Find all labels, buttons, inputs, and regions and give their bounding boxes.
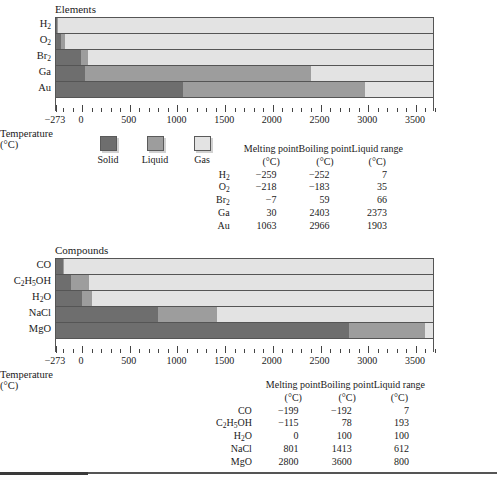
axis-tick-minor bbox=[187, 108, 188, 112]
axis-tick-minor bbox=[330, 108, 331, 112]
header-boiling-point: Boiling point bbox=[298, 143, 351, 156]
unit-melting: (°C) bbox=[266, 392, 321, 405]
axis-tick-major bbox=[56, 105, 57, 112]
table-cell-melting: −259 bbox=[244, 169, 299, 182]
table-row: Br2−75966 bbox=[216, 194, 403, 207]
axis-tick-major bbox=[321, 105, 322, 112]
axis-tick-major bbox=[82, 346, 83, 353]
table-header-row: Melting pointBoiling pointLiquid range bbox=[216, 379, 425, 392]
phase-segment-gas bbox=[365, 82, 433, 97]
table-cell-substance: Au bbox=[216, 220, 244, 233]
table-unit-corner bbox=[216, 156, 244, 169]
legend-label: Liquid bbox=[135, 154, 175, 165]
phase-segment-solid bbox=[56, 291, 82, 306]
axis-tick-minor bbox=[111, 349, 112, 353]
table-cell-boiling: 2966 bbox=[298, 220, 351, 233]
compounds-title: Compounds bbox=[55, 244, 108, 256]
axis-tick-minor bbox=[292, 349, 293, 353]
legend-label: Solid bbox=[88, 154, 128, 165]
axis-tick-minor bbox=[330, 349, 331, 353]
unit-boiling: (°C) bbox=[298, 156, 351, 169]
axis-tick-major bbox=[56, 346, 57, 353]
axis-tick-minor bbox=[101, 349, 102, 353]
bar-row bbox=[56, 66, 433, 82]
axis-tick-minor bbox=[406, 108, 407, 112]
phase-segment-gas bbox=[92, 291, 433, 306]
table-row: CO−199−1927 bbox=[216, 405, 425, 418]
axis-tick-minor bbox=[216, 349, 217, 353]
axis-tick-minor bbox=[359, 108, 360, 112]
compounds-row-label-CO: CO bbox=[0, 260, 51, 271]
table-row: H2−259−2527 bbox=[216, 169, 403, 182]
table-cell-substance: C2H5OH bbox=[216, 417, 266, 430]
axis-tick-minor bbox=[387, 349, 388, 353]
phase-segment-gas bbox=[65, 34, 433, 49]
axis-tick-minor bbox=[206, 349, 207, 353]
axis-tick-label: 500 bbox=[121, 114, 136, 125]
axis-tick-minor bbox=[168, 349, 169, 353]
axis-tick-minor bbox=[263, 349, 264, 353]
compounds-plot-frame bbox=[55, 258, 434, 352]
axis-tick-minor bbox=[340, 108, 341, 112]
table-row: O2−218−18335 bbox=[216, 181, 403, 194]
axis-tick-minor bbox=[301, 108, 302, 112]
axis-tick-label: 1000 bbox=[166, 114, 186, 125]
table-cell-boiling: 3600 bbox=[321, 456, 374, 469]
elements-row-label-H2: H2 bbox=[0, 19, 51, 30]
axis-tick-label: 0 bbox=[79, 114, 84, 125]
table-cell-range: 612 bbox=[374, 443, 425, 456]
axis-tick-minor bbox=[206, 108, 207, 112]
axis-tick-label: 2500 bbox=[310, 355, 330, 366]
phase-segment-solid bbox=[56, 66, 85, 81]
table-cell-substance: NaCl bbox=[216, 443, 266, 456]
unit-melting: (°C) bbox=[244, 156, 299, 169]
table-cell-boiling: 59 bbox=[298, 194, 351, 207]
elements-row-label-Au: Au bbox=[0, 83, 51, 94]
axis-tick-minor bbox=[292, 108, 293, 112]
compounds-row-label-MgO: MgO bbox=[0, 324, 51, 335]
axis-tick-minor bbox=[139, 349, 140, 353]
table-cell-melting: 0 bbox=[266, 430, 321, 443]
axis-tick-major bbox=[273, 105, 274, 112]
axis-tick-minor bbox=[73, 108, 74, 112]
phase-segment-gas bbox=[58, 18, 433, 33]
axis-tick-minor bbox=[254, 108, 255, 112]
axis-tick-major bbox=[416, 105, 417, 112]
axis-tick-label: 2000 bbox=[262, 355, 282, 366]
axis-tick-minor bbox=[149, 349, 150, 353]
axis-tick-major bbox=[273, 346, 274, 353]
compounds-axis-strip bbox=[56, 339, 433, 353]
axis-tick-minor bbox=[397, 108, 398, 112]
table-corner-cell bbox=[216, 143, 244, 156]
table-unit-corner bbox=[216, 392, 266, 405]
phase-segment-solid bbox=[56, 259, 63, 274]
elements-row-label-Br2: Br2 bbox=[0, 51, 51, 62]
phase-segment-liquid bbox=[71, 275, 89, 290]
axis-tick-major bbox=[130, 105, 131, 112]
table-row: C2H5OH−11578193 bbox=[216, 417, 425, 430]
table-cell-range: 7 bbox=[352, 169, 403, 182]
table-cell-melting: −218 bbox=[244, 181, 299, 194]
table-cell-boiling: 100 bbox=[321, 430, 374, 443]
phase-segment-solid bbox=[56, 307, 158, 322]
axis-tick-label: 500 bbox=[121, 355, 136, 366]
phase-segment-liquid bbox=[183, 82, 365, 97]
header-liquid-range: Liquid range bbox=[374, 379, 425, 392]
unit-range: (°C) bbox=[352, 156, 403, 169]
table-unit-row: (°C)(°C)(°C) bbox=[216, 392, 425, 405]
axis-tick-minor bbox=[139, 108, 140, 112]
axis-tick-label: 3000 bbox=[357, 355, 377, 366]
axis-tick-minor bbox=[244, 349, 245, 353]
header-melting-point: Melting point bbox=[266, 379, 321, 392]
axis-tick-minor bbox=[73, 349, 74, 353]
table-cell-boiling: −183 bbox=[298, 181, 351, 194]
axis-tick-minor bbox=[158, 108, 159, 112]
table-cell-boiling: 1413 bbox=[321, 443, 374, 456]
table-cell-melting: −199 bbox=[266, 405, 321, 418]
axis-tick-minor bbox=[197, 108, 198, 112]
axis-tick-label: 3500 bbox=[405, 114, 425, 125]
axis-tick-label: −273 bbox=[45, 355, 66, 366]
axis-tick-major bbox=[225, 346, 226, 353]
axis-tick-minor bbox=[254, 349, 255, 353]
table-cell-range: 66 bbox=[352, 194, 403, 207]
